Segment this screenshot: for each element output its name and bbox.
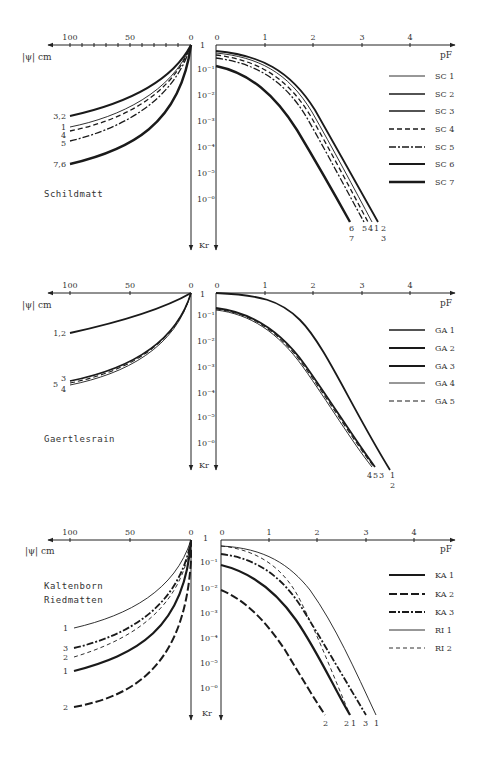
legend-label: RI 1 — [435, 626, 452, 635]
svg-text:6: 6 — [349, 224, 354, 233]
svg-text:5: 5 — [53, 380, 58, 389]
site-label-schildmatt: Schildmatt — [44, 189, 103, 199]
svg-text:1: 1 — [374, 224, 379, 233]
svg-text:100: 100 — [62, 281, 77, 290]
legend-schildmatt — [389, 76, 425, 182]
svg-text:10⁻⁶: 10⁻⁶ — [197, 195, 215, 204]
pf-ticks: 012 34 — [214, 33, 412, 42]
svg-text:2: 2 — [310, 33, 315, 42]
svg-text:7: 7 — [349, 234, 354, 243]
legend-label: RI 2 — [435, 644, 452, 653]
svg-text:10⁻²: 10⁻² — [197, 337, 215, 346]
svg-text:10⁻⁵: 10⁻⁵ — [197, 413, 215, 422]
psi-curves — [70, 45, 191, 164]
svg-text:1: 1 — [200, 290, 205, 299]
svg-text:1: 1 — [262, 281, 267, 290]
svg-text:4: 4 — [407, 33, 412, 42]
psi-tick-50: 50 — [125, 33, 135, 42]
svg-text:3,2: 3,2 — [53, 112, 66, 121]
svg-text:0: 0 — [214, 281, 219, 290]
panel-schildmatt: 100 50 0 |ψ| cm 1 10⁻¹ 10⁻² 10⁻³ 10⁻⁴ 10… — [22, 33, 455, 250]
svg-text:3: 3 — [359, 33, 364, 42]
site-label-riedmatten: Riedmatten — [44, 595, 103, 605]
svg-text:1: 1 — [266, 528, 271, 537]
svg-text:4: 4 — [61, 385, 66, 394]
figure-canvas: 100 50 0 |ψ| cm 1 10⁻¹ 10⁻² 10⁻³ 10⁻⁴ 10… — [0, 0, 485, 763]
svg-text:pF: pF — [440, 298, 452, 308]
svg-text:10⁻³: 10⁻³ — [197, 363, 215, 372]
svg-text:10⁻²: 10⁻² — [200, 584, 218, 593]
svg-text:|ψ| cm: |ψ| cm — [25, 546, 55, 557]
svg-text:10⁻¹: 10⁻¹ — [197, 311, 215, 320]
legend-label: SC 7 — [435, 178, 454, 187]
svg-text:0: 0 — [219, 528, 224, 537]
legend-label: KA 2 — [435, 590, 454, 599]
svg-text:4: 4 — [411, 528, 416, 537]
svg-text:1,2: 1,2 — [53, 329, 66, 338]
svg-text:1: 1 — [390, 471, 395, 480]
svg-text:5: 5 — [373, 471, 378, 480]
svg-text:Kr: Kr — [202, 709, 212, 718]
svg-text:5: 5 — [61, 139, 66, 148]
svg-text:3: 3 — [381, 234, 386, 243]
svg-text:10⁻⁶: 10⁻⁶ — [200, 684, 218, 693]
svg-text:10⁻³: 10⁻³ — [200, 609, 218, 618]
svg-text:5: 5 — [362, 224, 367, 233]
psi-tick-100: 100 — [62, 33, 77, 42]
svg-text:100: 100 — [62, 528, 77, 537]
legend-label: SC 2 — [435, 90, 454, 99]
svg-text:2: 2 — [63, 703, 68, 712]
svg-text:3: 3 — [363, 528, 368, 537]
svg-text:10⁻⁴: 10⁻⁴ — [197, 389, 215, 398]
svg-text:50: 50 — [125, 281, 135, 290]
svg-text:10⁻⁴: 10⁻⁴ — [200, 634, 218, 643]
svg-text:pF: pF — [440, 544, 452, 554]
legend-label: KA 1 — [435, 571, 454, 580]
pf-curves — [216, 51, 378, 222]
svg-text:2: 2 — [310, 281, 315, 290]
pf-axis-label: pF — [440, 50, 452, 60]
legend-label: KA 3 — [435, 608, 454, 617]
svg-text:2: 2 — [314, 528, 319, 537]
legend-label: GA 4 — [435, 379, 455, 388]
panel-gaertlesrain: 100 50 0 |ψ| cm 1 10⁻¹ 10⁻² 10⁻³ 10⁻⁴ 10… — [22, 281, 455, 490]
svg-text:3: 3 — [379, 471, 384, 480]
legend-label: SC 5 — [435, 143, 454, 152]
svg-text:50: 50 — [125, 528, 135, 537]
svg-text:4: 4 — [407, 281, 412, 290]
svg-text:2: 2 — [390, 481, 395, 490]
svg-text:2: 2 — [63, 653, 68, 662]
kr-ticks: 1 10⁻¹ 10⁻² 10⁻³ 10⁻⁴ 10⁻⁵ 10⁻⁶ Kr — [197, 41, 215, 250]
pf-end-labels: 221 31 — [323, 719, 379, 728]
svg-text:1: 1 — [262, 33, 267, 42]
site-label-gaertlesrain: Gaertlesrain — [44, 434, 115, 444]
svg-text:0: 0 — [188, 281, 193, 290]
svg-text:3: 3 — [359, 281, 364, 290]
site-label-kaltenborn: Kaltenborn — [44, 581, 103, 591]
svg-text:Kr: Kr — [199, 241, 209, 250]
svg-text:Kr: Kr — [199, 461, 209, 470]
svg-text:|ψ| cm: |ψ| cm — [22, 300, 52, 311]
legend-label: GA 2 — [435, 344, 455, 353]
svg-text:3: 3 — [63, 644, 68, 653]
svg-text:0: 0 — [214, 33, 219, 42]
svg-text:3: 3 — [61, 374, 66, 383]
svg-text:1: 1 — [203, 534, 208, 543]
svg-text:1: 1 — [63, 624, 68, 633]
svg-text:10⁻²: 10⁻² — [197, 91, 215, 100]
svg-text:1: 1 — [200, 41, 205, 50]
svg-text:10⁻¹: 10⁻¹ — [197, 65, 215, 74]
svg-text:7,6: 7,6 — [53, 160, 66, 169]
svg-text:3: 3 — [363, 719, 368, 728]
svg-text:10⁻³: 10⁻³ — [197, 117, 215, 126]
pf-end-labels: 67 541 23 — [349, 224, 386, 243]
svg-text:0: 0 — [188, 528, 193, 537]
legend-label: GA 5 — [435, 397, 455, 406]
svg-text:10⁻⁵: 10⁻⁵ — [197, 169, 215, 178]
svg-text:10⁻⁶: 10⁻⁶ — [197, 439, 215, 448]
psi-tick-0: 0 — [188, 33, 193, 42]
svg-text:2: 2 — [323, 719, 328, 728]
svg-text:10⁻⁴: 10⁻⁴ — [197, 143, 215, 152]
svg-text:10⁻¹: 10⁻¹ — [200, 558, 218, 567]
svg-text:10⁻⁵: 10⁻⁵ — [200, 659, 218, 668]
